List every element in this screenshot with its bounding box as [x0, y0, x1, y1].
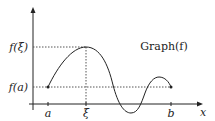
x-tick-label-xi: ξ — [83, 107, 90, 120]
function-curve — [48, 47, 171, 113]
x-tick-label-a: a — [45, 107, 52, 120]
x-tick-label-b: b — [167, 107, 174, 120]
curve-label: Graph(f) — [140, 40, 187, 53]
mean-value-diagram: f(ξ) f(a) a ξ b x Graph(f) — [0, 0, 215, 121]
y-tick-label-f-a: f(a) — [8, 81, 28, 94]
x-axis-label: x — [200, 106, 207, 119]
point-a — [47, 86, 50, 89]
point-b — [170, 86, 173, 89]
y-axis-arrow-icon — [31, 7, 36, 13]
y-tick-label-f-xi: f(ξ) — [8, 41, 28, 54]
